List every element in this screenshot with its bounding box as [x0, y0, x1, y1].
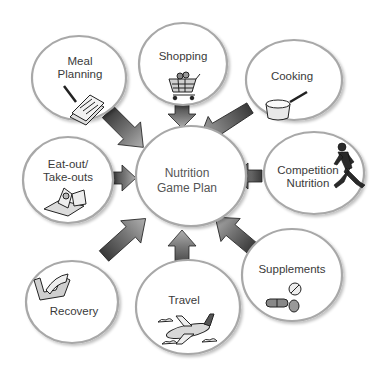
- label-line: Travel: [168, 294, 200, 307]
- label-line: Competition: [277, 164, 338, 177]
- arrow-eat-out: [112, 165, 136, 191]
- node-label-competition: Competition Nutrition: [277, 164, 338, 190]
- label-line: Shopping: [159, 50, 208, 63]
- label-line: Meal: [58, 55, 103, 68]
- node-circle-shopping: [139, 23, 227, 105]
- center-label-line: Nutrition: [157, 166, 217, 181]
- node-label-cooking: Cooking: [271, 70, 313, 83]
- label-line: Nutrition: [277, 177, 338, 190]
- label-line: Cooking: [271, 70, 313, 83]
- arrow-recovery: [94, 207, 156, 267]
- node-label-recovery: Recovery: [50, 305, 99, 318]
- label-line: Take-outs: [43, 171, 93, 184]
- node-label-supplements: Supplements: [258, 263, 325, 276]
- node-label-travel: Travel: [168, 294, 200, 307]
- node-label-shopping: Shopping: [159, 50, 208, 63]
- node-circle-travel: [136, 260, 240, 354]
- label-line: Eat-out/: [43, 158, 93, 171]
- center-label: Nutrition Game Plan: [157, 166, 217, 196]
- label-line: Recovery: [50, 305, 99, 318]
- node-circle-recovery: [26, 261, 118, 343]
- label-line: Planning: [58, 68, 103, 81]
- label-line: Supplements: [258, 263, 325, 276]
- node-label-eat-out: Eat-out/ Take-outs: [43, 158, 93, 184]
- node-label-meal-planning: Meal Planning: [58, 55, 103, 81]
- center-label-line: Game Plan: [157, 181, 217, 196]
